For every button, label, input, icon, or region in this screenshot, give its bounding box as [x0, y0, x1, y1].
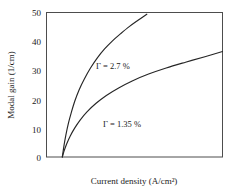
y-tick-label-40: 40 [32, 37, 42, 47]
y-tick-label-10: 10 [32, 125, 42, 135]
y-tick-label-20: 20 [32, 96, 42, 106]
y-tick-label-0: 0 [37, 153, 42, 163]
x-axis-title: Current density (A/cm²) [91, 176, 178, 186]
modal-gain-chart-figure: 50 40 30 20 10 0 Modal gain (1/cm) Curre… [0, 0, 242, 195]
chart-canvas: 50 40 30 20 10 0 Modal gain (1/cm) Curre… [0, 0, 242, 195]
curve-annotation-lower: Γ = 1.35 % [103, 119, 141, 129]
y-axis-title: Modal gain (1/cm) [6, 51, 16, 118]
y-tick-label-50: 50 [32, 8, 42, 18]
curve-annotation-upper: Γ = 2.7 % [96, 61, 130, 71]
y-tick-label-30: 30 [32, 66, 42, 76]
